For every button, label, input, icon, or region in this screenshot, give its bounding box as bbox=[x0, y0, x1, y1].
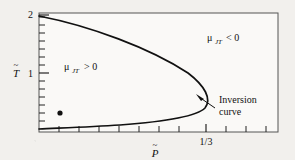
mu-symbol-negative: μ bbox=[207, 32, 212, 43]
y-axis-label: T ~ bbox=[13, 60, 20, 79]
y-tick-label-1: 1 bbox=[28, 68, 33, 79]
y-tick-label-2: 2 bbox=[28, 9, 33, 20]
annotation-line-2: curve bbox=[219, 106, 242, 117]
mu-symbol-positive: μ bbox=[64, 61, 69, 72]
x-axis-label: P ~ bbox=[151, 140, 159, 159]
inversion-curve-figure: 2 1 1/3 T ~ P ~ μ JT > 0 μ JT < 0 Invers… bbox=[0, 0, 295, 160]
mu-subscript-negative: JT bbox=[215, 38, 223, 46]
x-axis-label-tilde: ~ bbox=[153, 140, 158, 150]
state-point-marker bbox=[57, 110, 62, 115]
mu-subscript-positive: JT bbox=[72, 67, 80, 75]
annotation-line-1: Inversion bbox=[219, 94, 257, 105]
y-axis-label-tilde: ~ bbox=[14, 60, 19, 70]
x-tick-label-one-third: 1/3 bbox=[200, 136, 213, 147]
mu-relation-negative: < 0 bbox=[226, 32, 239, 43]
mu-relation-positive: > 0 bbox=[84, 61, 97, 72]
